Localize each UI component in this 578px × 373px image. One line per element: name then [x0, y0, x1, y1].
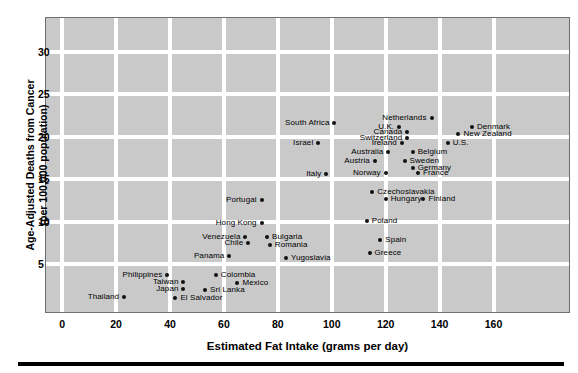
data-point — [173, 296, 177, 300]
data-point — [384, 197, 388, 201]
y-tick-label: 30 — [38, 46, 50, 58]
data-point — [405, 136, 409, 140]
data-point — [260, 221, 264, 225]
point-label: Italy — [306, 170, 321, 178]
x-tick-label: 0 — [59, 318, 65, 330]
data-point — [421, 197, 425, 201]
point-label: Greece — [375, 249, 402, 257]
x-tick-label: 160 — [485, 318, 503, 330]
gridline-vertical — [60, 18, 64, 312]
bottom-rule — [18, 362, 564, 366]
data-point — [368, 251, 372, 255]
y-axis-title-line1: Age-Adjusted Deaths from Cancer — [24, 40, 37, 290]
data-point — [430, 116, 434, 120]
data-point — [260, 198, 264, 202]
data-point — [405, 130, 409, 134]
data-point — [378, 238, 382, 242]
data-point — [181, 287, 185, 291]
data-point — [400, 141, 404, 145]
point-label: Poland — [372, 217, 398, 225]
data-point — [332, 121, 336, 125]
point-label: Panama — [194, 252, 224, 260]
point-label: Portugal — [226, 196, 257, 204]
gridline-vertical — [222, 18, 226, 312]
x-tick-label: 60 — [218, 318, 230, 330]
x-tick-label: 20 — [110, 318, 122, 330]
data-point — [122, 295, 126, 299]
gridline-vertical — [384, 18, 388, 312]
data-point — [386, 150, 390, 154]
x-tick-label: 140 — [431, 318, 449, 330]
scatter-plot-figure: South AfricaNetherlandsDenmarkNew Zealan… — [0, 0, 578, 373]
data-point — [203, 288, 207, 292]
point-label: El Salvador — [180, 294, 222, 302]
point-label: Japan — [156, 285, 178, 293]
data-point — [456, 132, 460, 136]
gridline-vertical — [168, 18, 172, 312]
data-point — [373, 159, 377, 163]
point-label: South Africa — [285, 119, 329, 127]
data-point — [324, 172, 328, 176]
gridline-vertical — [330, 18, 334, 312]
y-axis-title: Age-Adjusted Deaths from Cancer (per 100… — [24, 40, 50, 290]
gridline-vertical — [114, 18, 118, 312]
y-axis-title-line2: (per 100,000 population) — [37, 40, 50, 290]
gridline-horizontal — [46, 50, 569, 54]
data-point — [384, 171, 388, 175]
point-label: Israel — [293, 139, 313, 147]
data-point — [403, 159, 407, 163]
y-tick-label: 10 — [38, 216, 50, 228]
data-point — [243, 235, 247, 239]
data-point — [246, 241, 250, 245]
point-label: Austria — [344, 157, 370, 165]
data-point — [411, 150, 415, 154]
point-label: Hong Kong — [216, 219, 257, 227]
x-tick-label: 80 — [272, 318, 284, 330]
data-point — [227, 254, 231, 258]
y-tick-label: 20 — [38, 131, 50, 143]
point-label: Norway — [353, 169, 381, 177]
data-point — [416, 171, 420, 175]
point-label: Thailand — [88, 293, 120, 301]
point-label: Chile — [224, 239, 243, 247]
y-tick-label: 5 — [38, 258, 44, 270]
data-point — [411, 166, 415, 170]
x-axis-title: Estimated Fat Intake (grams per day) — [45, 340, 570, 352]
point-label: France — [423, 169, 449, 177]
gridline-horizontal — [46, 92, 569, 96]
data-point — [316, 141, 320, 145]
data-point — [268, 243, 272, 247]
gridline-horizontal — [46, 220, 569, 224]
gridline-horizontal — [46, 262, 569, 266]
x-tick-label: 100 — [323, 318, 341, 330]
y-tick-label: 25 — [38, 88, 50, 100]
data-point — [365, 219, 369, 223]
point-label: Mexico — [242, 279, 268, 287]
point-label: Spain — [385, 236, 406, 244]
data-point — [181, 280, 185, 284]
point-label: New Zealand — [463, 130, 511, 138]
y-tick-label: 15 — [38, 173, 50, 185]
x-tick-label: 120 — [377, 318, 395, 330]
gridline-vertical — [276, 18, 280, 312]
point-label: Ireland — [372, 139, 397, 147]
data-point — [265, 235, 269, 239]
data-point — [214, 273, 218, 277]
plot-area: South AfricaNetherlandsDenmarkNew Zealan… — [45, 17, 570, 313]
x-tick-label: 40 — [164, 318, 176, 330]
data-point — [370, 190, 374, 194]
data-point — [284, 256, 288, 260]
point-label: U.S. — [453, 139, 469, 147]
gridline-vertical — [492, 18, 496, 312]
point-label: Romania — [275, 241, 308, 249]
point-label: Finland — [428, 195, 455, 203]
data-point — [446, 141, 450, 145]
point-label: Yugoslavia — [291, 254, 331, 262]
point-label: Hungary — [391, 195, 422, 203]
